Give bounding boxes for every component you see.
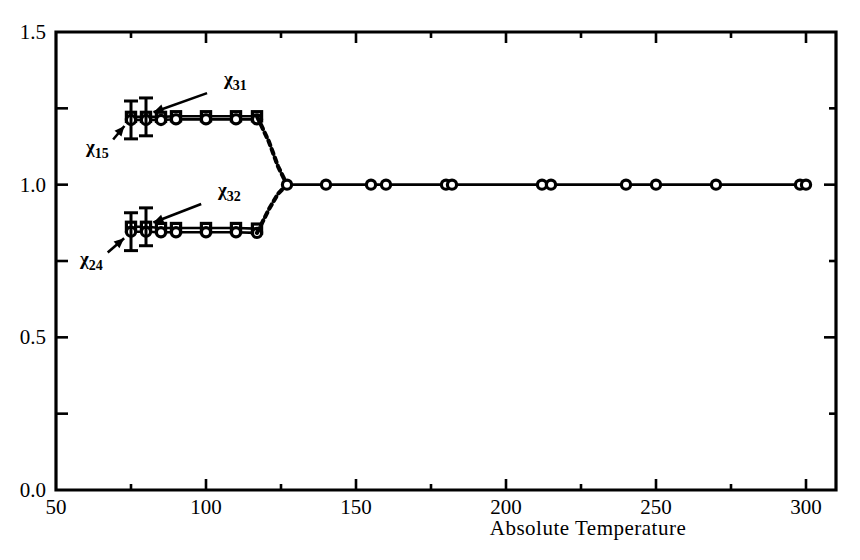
y-tick-label: 0.0 [20, 478, 46, 502]
chart-background [0, 0, 860, 560]
data-point-marker [711, 180, 720, 189]
chart-svg: χ31χ15χ32χ24 50100150200250300 0.00.51.0… [0, 0, 860, 560]
data-point-marker [621, 180, 630, 189]
x-tick-label: 50 [46, 495, 67, 519]
data-point-marker [156, 228, 165, 237]
figure-container: χ31χ15χ32χ24 50100150200250300 0.00.51.0… [0, 0, 860, 560]
data-point-marker [282, 180, 291, 189]
series-label-base: χ [85, 136, 95, 157]
x-axis-title: Absolute Temperature [490, 516, 687, 540]
data-point-marker [231, 115, 240, 124]
data-point-marker [366, 180, 375, 189]
data-point-marker [171, 228, 180, 237]
data-point-marker [321, 180, 330, 189]
data-point-marker [381, 180, 390, 189]
x-tick-label: 150 [340, 495, 372, 519]
data-point-marker [231, 228, 240, 237]
data-point-marker [156, 115, 165, 124]
data-point-marker [201, 228, 210, 237]
series-label-base: χ [79, 248, 89, 269]
series-label-subscript: 31 [233, 78, 247, 93]
data-point-marker [201, 115, 210, 124]
y-tick-label: 0.5 [20, 325, 46, 349]
x-tick-label: 100 [190, 495, 222, 519]
data-point-marker [171, 115, 180, 124]
series-label-subscript: 32 [227, 189, 241, 204]
data-point-marker [546, 180, 555, 189]
data-point-marker [447, 180, 456, 189]
series-label-subscript: 24 [89, 258, 103, 273]
series-label-base: χ [223, 68, 233, 89]
series-label-base: χ [217, 179, 227, 200]
data-point-marker [801, 180, 810, 189]
y-tick-label: 1.0 [20, 173, 46, 197]
data-point-marker [651, 180, 660, 189]
series-label-subscript: 15 [95, 146, 109, 161]
y-tick-label: 1.5 [20, 20, 46, 44]
x-tick-label: 300 [790, 495, 822, 519]
